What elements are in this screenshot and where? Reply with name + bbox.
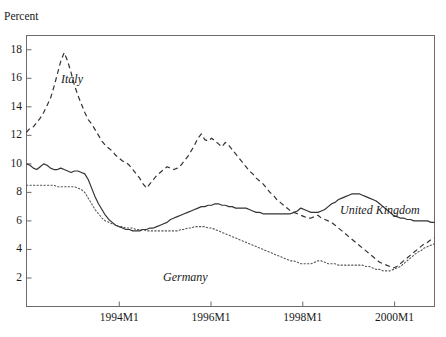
y-tick-label: 10	[2, 157, 22, 169]
x-tick-label: 1994M1	[84, 311, 154, 323]
y-tick-label: 2	[2, 271, 22, 283]
figure-root: Percent 18161412108642 1994M11996M11998M…	[0, 0, 446, 337]
series-label-germany: Germany	[163, 270, 208, 285]
x-tick-label: 1996M1	[176, 311, 246, 323]
chart-canvas	[0, 0, 446, 337]
y-tick-label: 4	[2, 242, 22, 254]
y-tick-label: 6	[2, 214, 22, 226]
series-lines	[27, 53, 435, 271]
y-tick-label: 12	[2, 128, 22, 140]
y-tick-label: 18	[2, 43, 22, 55]
series-label-united-kingdom: United Kingdom	[340, 203, 420, 218]
x-tick-label: 2000M1	[360, 311, 430, 323]
axis-ticks	[27, 50, 395, 307]
y-tick-label: 8	[2, 185, 22, 197]
x-tick-label: 1998M1	[268, 311, 338, 323]
series-line-germany	[27, 185, 435, 271]
y-tick-label: 16	[2, 71, 22, 83]
y-tick-label: 14	[2, 100, 22, 112]
series-label-italy: Italy	[61, 72, 83, 87]
